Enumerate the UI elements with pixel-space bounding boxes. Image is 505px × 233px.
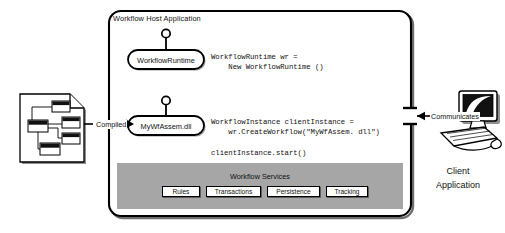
service-button-tracking[interactable]: Tracking (326, 186, 368, 197)
service-button-transactions[interactable]: Transactions (206, 186, 261, 197)
workflow-runtime-code: WorkflowRuntime wr = New WorkflowRuntime… (211, 52, 324, 73)
communicates-edge-label: Communicates (430, 112, 480, 121)
my-wf-assem-label: MyWfAssem.dll (128, 122, 204, 131)
service-button-rules[interactable]: Rules (162, 186, 200, 197)
workflow-runtime-label: WorkflowRuntime (128, 56, 204, 65)
workflow-instance-code: WorkflowInstance clientInstance = wr.Cre… (211, 117, 380, 138)
service-button-persistence-label: Persistence (276, 188, 310, 195)
host-application-title: Workflow Host Application (113, 15, 201, 23)
client-application-caption-line2: Application (413, 180, 503, 191)
workflow-services-title: Workflow Services (117, 172, 403, 181)
client-instance-start-code: clientInstance.start() (211, 148, 306, 158)
workflow-architecture-diagram: Workflow Host Application WorkflowRuntim… (0, 0, 505, 233)
diagram-text-layer: Workflow Host Application WorkflowRuntim… (0, 0, 505, 233)
compiled-edge-label: Compiled (95, 120, 127, 129)
service-button-persistence[interactable]: Persistence (267, 186, 320, 197)
client-application-caption-line1: Client (413, 166, 503, 177)
service-button-rules-label: Rules (173, 188, 190, 195)
service-button-tracking-label: Tracking (334, 188, 359, 195)
service-button-transactions-label: Transactions (215, 188, 253, 195)
